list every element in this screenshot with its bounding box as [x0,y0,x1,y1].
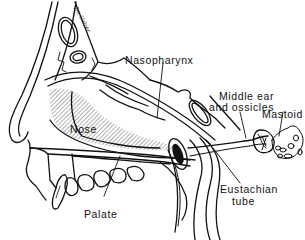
mastoid [272,126,303,159]
label-eustachian-line1: Eustachian [220,184,278,195]
soft-palate [160,162,187,220]
leader-palate [104,156,120,196]
label-nose: Nose [70,124,97,135]
sphenoid-sinus [69,50,87,65]
label-eustachian-line2: tube [232,196,255,207]
label-nasopharynx: Nasopharynx [125,55,193,66]
leader-nasopharynx [157,63,163,118]
leader-middle-ear [240,112,246,138]
middle-ear [253,130,274,153]
anatomy-drawing [0,0,305,240]
eustachian-tube [188,136,268,156]
label-palate: Palate [84,209,117,220]
teeth [52,166,144,209]
eustachian-opening [165,136,191,172]
label-mastoid: Mastoid [262,109,303,120]
leader-eustachian [213,148,240,183]
